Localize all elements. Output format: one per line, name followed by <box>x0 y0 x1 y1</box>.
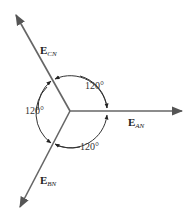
angle-arc-bn-an-start <box>55 144 80 148</box>
angle-label-cn-bn: 120° <box>25 105 44 116</box>
angle-label-bn-an: 120° <box>80 141 99 152</box>
phasor-an-label: EAN <box>128 116 145 130</box>
phasor-diagram: ECN EAN EBN 120° 120° 120° <box>0 0 188 222</box>
phasor-cn-line <box>16 15 70 111</box>
angle-label-an-cn: 120° <box>85 80 104 91</box>
phasor-bn-line <box>20 111 70 207</box>
phasor-cn-label: ECN <box>40 44 57 58</box>
phasor-bn-label: EBN <box>40 174 57 188</box>
